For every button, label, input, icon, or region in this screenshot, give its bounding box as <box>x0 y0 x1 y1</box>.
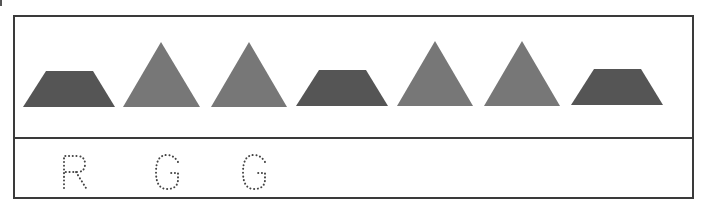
answer-row: R G G <box>15 139 692 197</box>
shape-pattern-row <box>15 17 692 137</box>
trapezoid-shape-1 <box>23 71 115 107</box>
trapezoid-shape-2 <box>296 70 388 106</box>
traced-letter-g-2: G <box>15 139 265 189</box>
traced-letter-g-1: G <box>15 139 178 189</box>
triangle-shape-4 <box>484 41 560 106</box>
triangle-shape-1 <box>123 42 200 107</box>
triangle-shape-3 <box>397 41 473 106</box>
triangle-shape-2 <box>211 42 287 107</box>
trapezoid-shape-3 <box>571 69 663 105</box>
traced-letter-r: R <box>15 139 86 188</box>
pattern-worksheet: R G G <box>13 15 694 199</box>
corner-mark <box>0 0 2 6</box>
